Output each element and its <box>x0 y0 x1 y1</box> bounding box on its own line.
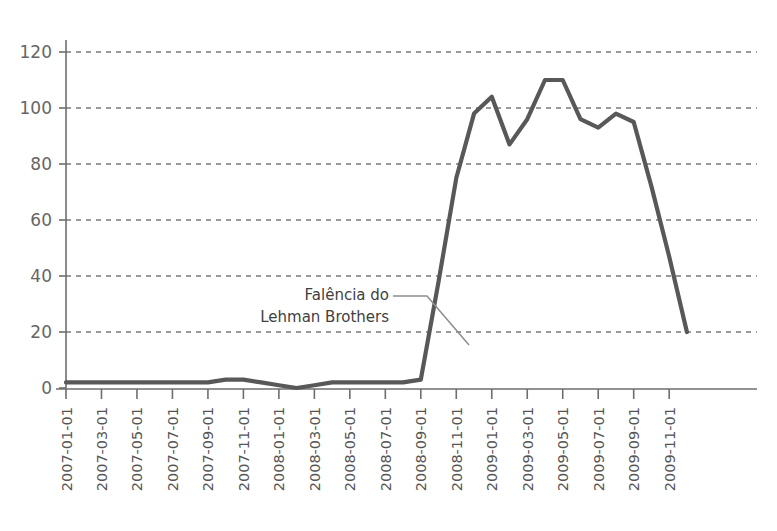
x-tick-label-2008-03-01: 2008-03-01 <box>307 407 323 491</box>
x-tick-label-2007-07-01: 2007-07-01 <box>165 407 181 491</box>
x-tick-label-2007-01-01: 2007-01-01 <box>59 407 75 491</box>
annotation-text-line2: Lehman Brothers <box>260 308 389 326</box>
x-tick-label-2007-11-01: 2007-11-01 <box>236 407 252 491</box>
x-tick-label-2009-11-01: 2009-11-01 <box>662 407 678 491</box>
x-tick-label-2007-03-01: 2007-03-01 <box>94 407 110 491</box>
annotation-text-line1: Falência do <box>305 286 389 304</box>
x-tick-label-2009-01-01: 2009-01-01 <box>484 407 500 491</box>
x-tick-label-2008-11-01: 2008-11-01 <box>449 407 465 491</box>
line-chart-canvas: 020406080100120 2007-01-012007-03-012007… <box>0 0 777 531</box>
x-tick-label-2009-03-01: 2009-03-01 <box>520 407 536 491</box>
x-tick-label-2008-01-01: 2008-01-01 <box>271 407 287 491</box>
axes <box>56 40 757 389</box>
x-tick-label-2007-09-01: 2007-09-01 <box>200 407 216 491</box>
y-tick-label-120: 120 <box>20 42 52 62</box>
x-tick-label-2009-07-01: 2009-07-01 <box>591 407 607 491</box>
x-tick-label-2008-07-01: 2008-07-01 <box>378 407 394 491</box>
y-tick-label-80: 80 <box>30 154 52 174</box>
x-tick-label-2009-09-01: 2009-09-01 <box>626 407 642 491</box>
x-tick-label-2008-05-01: 2008-05-01 <box>342 407 358 491</box>
series-line-0 <box>66 80 687 388</box>
y-tick-label-20: 20 <box>30 322 52 342</box>
y-tick-label-60: 60 <box>30 210 52 230</box>
data-series-lines <box>66 80 687 388</box>
x-axis-ticks <box>66 389 669 399</box>
y-tick-label-0: 0 <box>41 378 52 398</box>
x-tick-label-2009-05-01: 2009-05-01 <box>555 407 571 491</box>
x-axis-tick-labels: 2007-01-012007-03-012007-05-012007-07-01… <box>59 407 678 491</box>
y-tick-label-40: 40 <box>30 266 52 286</box>
y-tick-label-100: 100 <box>20 98 52 118</box>
chart-figure: 020406080100120 2007-01-012007-03-012007… <box>0 0 777 531</box>
x-tick-label-2008-09-01: 2008-09-01 <box>413 407 429 491</box>
y-axis-tick-labels: 020406080100120 <box>20 42 52 398</box>
x-tick-label-2007-05-01: 2007-05-01 <box>129 407 145 491</box>
